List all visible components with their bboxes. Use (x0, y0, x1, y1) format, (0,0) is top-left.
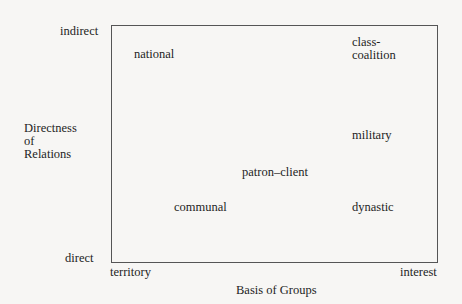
item-patron-client: patron–client (242, 166, 308, 179)
x-axis-left-label: territory (110, 266, 151, 279)
y-axis-bottom-label: direct (65, 252, 93, 265)
x-axis-title: Basis of Groups (236, 284, 317, 297)
item-class-coalition: class- coalition (352, 36, 396, 62)
item-military: military (352, 129, 392, 142)
item-communal: communal (174, 201, 227, 214)
item-dynastic: dynastic (352, 201, 394, 214)
y-axis-title: Directness of Relations (24, 122, 77, 161)
y-axis-top-label: indirect (60, 25, 98, 38)
x-axis-right-label: interest (400, 266, 437, 279)
item-national: national (134, 48, 174, 61)
